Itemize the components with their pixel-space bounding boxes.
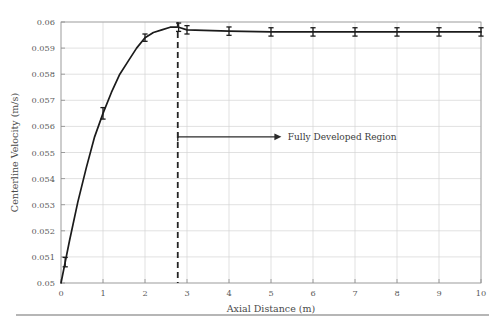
y-tick-label: 0.054: [32, 174, 55, 184]
x-tick-label: 1: [100, 288, 105, 298]
y-tick-label: 0.059: [32, 43, 55, 53]
y-tick-label: 0.053: [32, 200, 55, 210]
annotation-label: Fully Developed Region: [288, 132, 397, 142]
x-tick-label: 2: [142, 288, 147, 298]
y-axis-title: Centerline Velocity (m/s): [9, 93, 20, 212]
x-tick-label: 10: [476, 288, 486, 298]
y-tick-label: 0.05: [37, 278, 55, 288]
centerline-velocity-chart: 0.050.0510.0520.0530.0540.0550.0560.0570…: [0, 0, 502, 325]
x-tick-label: 7: [352, 288, 357, 298]
x-tick-label: 8: [394, 288, 399, 298]
x-axis-title: Axial Distance (m): [226, 303, 316, 314]
x-axis-ticks: 012345678910: [58, 279, 486, 298]
x-tick-label: 5: [268, 288, 273, 298]
y-tick-label: 0.055: [32, 148, 55, 158]
y-tick-label: 0.056: [32, 121, 55, 131]
gridlines: [61, 22, 481, 283]
y-tick-label: 0.052: [32, 226, 55, 236]
y-tick-label: 0.058: [32, 69, 55, 79]
annotation-arrow: [178, 132, 282, 141]
y-tick-label: 0.051: [32, 252, 55, 262]
y-tick-label: 0.057: [32, 95, 55, 105]
x-tick-label: 9: [436, 288, 441, 298]
error-bars: [63, 23, 484, 267]
x-tick-label: 0: [58, 288, 63, 298]
y-tick-label: 0.06: [37, 17, 55, 27]
x-tick-label: 4: [226, 288, 231, 298]
x-tick-label: 3: [184, 288, 189, 298]
y-axis-ticks: 0.050.0510.0520.0530.0540.0550.0560.0570…: [32, 17, 65, 288]
figure-container: 0.050.0510.0520.0530.0540.0550.0560.0570…: [0, 0, 502, 325]
x-tick-label: 6: [310, 288, 315, 298]
